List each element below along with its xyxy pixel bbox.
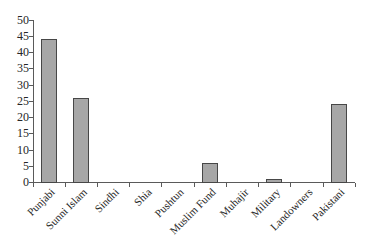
bar-military: [266, 179, 282, 183]
x-axis-tick: [290, 183, 291, 187]
bar-pakistani: [331, 104, 347, 183]
x-axis-tick: [129, 183, 130, 187]
y-axis-tick-label: 40: [0, 46, 29, 58]
x-axis-tick: [226, 183, 227, 187]
x-axis-label: Muhajir: [217, 186, 251, 220]
x-axis-tick: [258, 183, 259, 187]
y-axis-tick: [29, 36, 33, 37]
x-axis-tick: [33, 183, 34, 187]
x-axis-tick: [323, 183, 324, 187]
y-axis-tick-label: 20: [0, 111, 29, 123]
bar-chart: 05101520253035404550PunjabiSunni IslamSi…: [0, 0, 371, 245]
y-axis-tick: [29, 85, 33, 86]
y-axis-tick: [29, 117, 33, 118]
y-axis-tick-label: 50: [0, 14, 29, 26]
bar-punjabi: [41, 39, 57, 183]
y-axis-tick: [29, 20, 33, 21]
y-axis-tick-label: 25: [0, 95, 29, 107]
y-axis-tick-label: 15: [0, 127, 29, 139]
x-axis-tick: [65, 183, 66, 187]
y-axis-tick: [29, 52, 33, 53]
y-axis-tick: [29, 101, 33, 102]
x-axis-tick: [161, 183, 162, 187]
x-axis-tick: [194, 183, 195, 187]
y-axis-tick-label: 0: [0, 176, 29, 188]
x-axis-label: Shia: [131, 186, 153, 208]
y-axis-tick: [29, 166, 33, 167]
y-axis-line: [33, 20, 34, 184]
x-axis-label: Sindhi: [93, 186, 122, 215]
y-axis-tick-label: 35: [0, 62, 29, 74]
y-axis-tick-label: 5: [0, 160, 29, 172]
bar-sunni-islam: [73, 98, 89, 184]
x-axis-label: Pakistani: [310, 186, 347, 223]
y-axis-tick: [29, 68, 33, 69]
bar-muslim-fund: [202, 163, 218, 184]
y-axis-tick: [29, 133, 33, 134]
y-axis-tick: [29, 150, 33, 151]
x-axis-tick: [97, 183, 98, 187]
y-axis-tick-label: 30: [0, 79, 29, 91]
x-axis-tick: [355, 183, 356, 187]
y-axis-tick-label: 45: [0, 30, 29, 42]
y-axis-tick-label: 10: [0, 144, 29, 156]
